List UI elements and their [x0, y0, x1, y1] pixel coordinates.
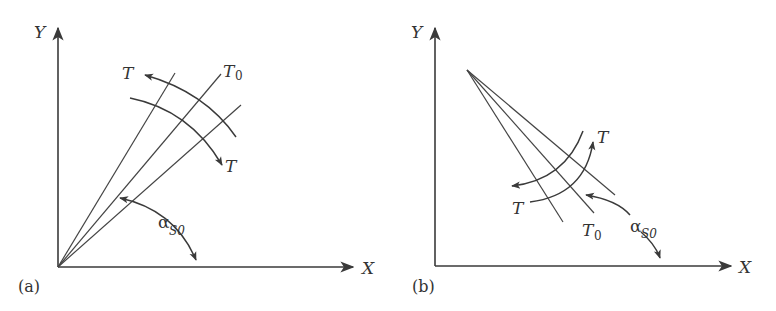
- label-t-lower-a: T: [225, 156, 238, 176]
- panel-b: Y X (b) T T T 0 α S0: [411, 22, 752, 296]
- label-t-upper-b: T: [597, 127, 610, 147]
- diagram-canvas: Y X (a) T T 0 T α S0 Y X (b) T T T 0 α S…: [0, 0, 776, 311]
- label-t0-sub-b: 0: [594, 229, 602, 243]
- arc-upper-arrow-a: [145, 75, 236, 137]
- panel-label-a: (a): [18, 277, 40, 296]
- label-t-lower-b: T: [512, 198, 525, 218]
- y-axis-label-b: Y: [411, 22, 424, 42]
- label-alpha-sub-a: S0: [169, 224, 185, 238]
- ray-t0-a: [58, 74, 221, 267]
- ray-t-left-a: [58, 73, 175, 267]
- panel-label-b: (b): [412, 277, 435, 296]
- panel-a: Y X (a) T T 0 T α S0: [18, 22, 375, 296]
- label-t0-sub-a: 0: [235, 69, 243, 83]
- x-axis-label-b: X: [737, 257, 752, 277]
- label-t-upper-a: T: [122, 63, 135, 83]
- x-axis-label-a: X: [360, 258, 375, 278]
- ray-t-right-a: [58, 105, 241, 267]
- ray-right-b: [467, 70, 615, 195]
- y-axis-label-a: Y: [34, 22, 47, 42]
- ray-t0-b: [467, 70, 594, 213]
- arc-lower-arrow-a: [130, 98, 222, 165]
- label-alpha-sub-b: S0: [641, 227, 657, 241]
